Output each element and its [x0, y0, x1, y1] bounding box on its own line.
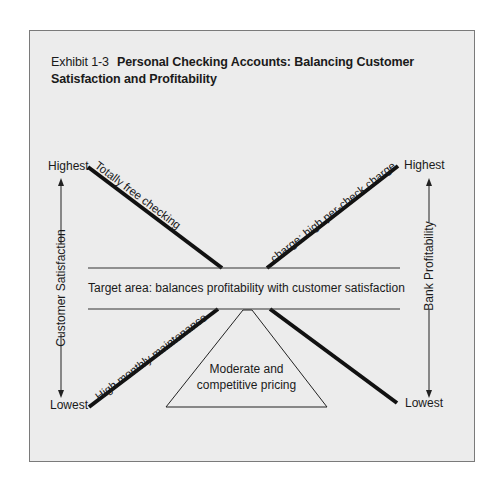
triangle-line2: competitive pricing — [166, 378, 327, 392]
left-axis-label: Customer Satisfaction — [54, 227, 68, 349]
arrow-up-icon — [426, 178, 432, 186]
right-axis-highest: Highest — [404, 158, 445, 172]
right-axis-label: Bank Profitability — [422, 215, 436, 317]
arrow-up-icon — [58, 178, 64, 186]
line-totally-free-checking — [88, 167, 222, 268]
arrow-down-icon — [58, 390, 64, 398]
triangle-line1: Moderate and — [166, 362, 327, 376]
left-axis-highest: Highest — [48, 159, 89, 173]
right-axis-lowest: Lowest — [405, 396, 443, 410]
target-area-label: Target area: balances profitability with… — [88, 281, 400, 295]
left-axis-lowest: Lowest — [50, 398, 88, 412]
